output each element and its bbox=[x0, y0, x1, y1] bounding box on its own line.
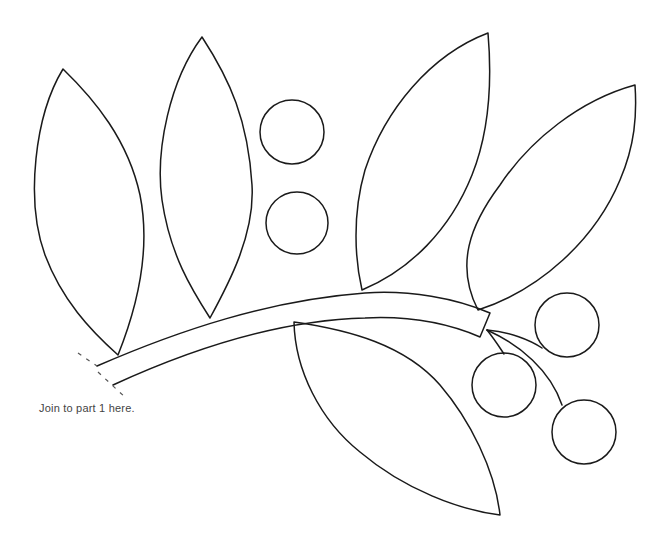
join-instruction-caption: Join to part 1 here. bbox=[39, 402, 135, 414]
leaf-2 bbox=[160, 37, 252, 318]
berry-5 bbox=[552, 400, 616, 464]
branch-stem bbox=[97, 292, 490, 385]
leaf-5 bbox=[294, 322, 500, 515]
berry-1 bbox=[260, 100, 324, 164]
join-marker-upper bbox=[78, 353, 97, 366]
leaf-4 bbox=[467, 85, 636, 310]
leaf-3 bbox=[356, 33, 490, 290]
branch-pattern-drawing bbox=[0, 0, 664, 546]
berry-3 bbox=[535, 293, 599, 357]
leaf-1 bbox=[35, 69, 144, 355]
berry-2 bbox=[266, 192, 328, 254]
berry-stem-5 bbox=[487, 330, 562, 405]
berry-4 bbox=[472, 353, 536, 417]
